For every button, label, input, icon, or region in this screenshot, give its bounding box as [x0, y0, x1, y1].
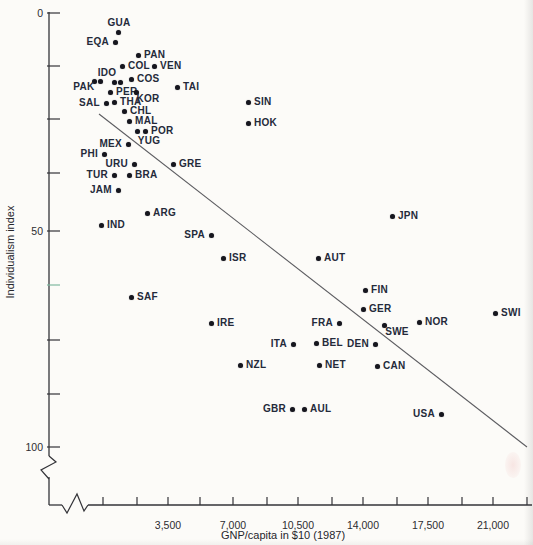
x-tick-label: 10,500	[282, 519, 314, 531]
data-point-ind	[99, 223, 104, 228]
data-point-yug	[135, 129, 140, 134]
data-point-fin	[363, 288, 368, 293]
point-label-nzl: NZL	[246, 360, 266, 370]
point-label-ido: IDO	[98, 68, 117, 78]
data-point-ger	[361, 307, 366, 312]
data-point-mex	[126, 142, 131, 147]
point-label-jpn: JPN	[398, 211, 418, 221]
data-point-den	[373, 342, 378, 347]
data-point-por	[143, 129, 148, 134]
data-point-cos	[129, 77, 134, 82]
point-label-yug: YUG	[138, 136, 161, 146]
point-label-fin: FIN	[371, 285, 388, 295]
x-tick-label: 21,000	[477, 519, 509, 531]
data-point-fra	[337, 321, 342, 326]
data-point-ita	[291, 342, 296, 347]
data-point-jpn	[390, 214, 395, 219]
point-label-fra: FRA	[312, 318, 333, 328]
point-label-sin: SIN	[254, 97, 272, 107]
data-point-jam	[116, 188, 121, 193]
point-label-bel: BEL	[322, 338, 343, 348]
data-point-tur	[112, 173, 117, 178]
data-point-tha	[112, 100, 117, 105]
data-point-phi	[102, 152, 107, 157]
data-point-usa	[439, 412, 444, 417]
data-point-bra	[127, 173, 132, 178]
point-label-saf: SAF	[137, 292, 158, 302]
point-label-cos: COS	[137, 74, 160, 84]
data-point-chl	[122, 109, 127, 114]
x-tick-label: 7,000	[220, 519, 246, 531]
scatter-plot: Individualism index GNP/capita in $10 (1…	[0, 0, 533, 545]
data-point-tai	[175, 85, 180, 90]
data-point-sal	[104, 101, 109, 106]
data-point-eqa	[113, 40, 118, 45]
data-point-arg	[145, 211, 150, 216]
data-point-saf	[129, 295, 134, 300]
point-label-gua: GUA	[107, 18, 130, 28]
point-label-aut: AUT	[324, 253, 345, 263]
data-point-aut	[316, 256, 321, 261]
scan-smudge	[505, 452, 521, 478]
point-label-tur: TUR	[87, 170, 108, 180]
data-point-hok	[246, 121, 251, 126]
point-label-col: COL	[128, 61, 150, 71]
point-label-ger: GER	[369, 304, 392, 314]
point-label-den: DEN	[347, 339, 369, 349]
point-label-aul: AUL	[310, 404, 331, 414]
data-point-gua	[116, 30, 121, 35]
data-point-nor	[417, 320, 422, 325]
point-label-net: NET	[325, 360, 346, 370]
point-label-can: CAN	[383, 361, 406, 371]
data-point-gre	[171, 162, 176, 167]
point-label-swi: SWI	[501, 308, 521, 318]
point-label-tai: TAI	[183, 82, 199, 92]
point-label-por: POR	[151, 126, 174, 136]
x-tick-label: 14,000	[347, 519, 379, 531]
plot-area: Individualism index GNP/capita in $10 (1…	[0, 0, 533, 545]
data-point-col	[120, 64, 125, 69]
point-label-ire: IRE	[217, 318, 235, 328]
data-point-spa	[209, 233, 214, 238]
point-label-mex: MEX	[99, 139, 122, 149]
point-label-sal: SAL	[79, 98, 100, 108]
point-label-ind: IND	[107, 220, 125, 230]
x-tick-label: 3,500	[155, 519, 181, 531]
data-point-bel	[314, 341, 319, 346]
data-point-sin	[246, 100, 251, 105]
data-point-unlabeled	[112, 80, 117, 85]
point-label-arg: ARG	[153, 208, 176, 218]
point-label-swe: SWE	[385, 327, 409, 337]
data-point-unlabeled	[118, 80, 123, 85]
point-label-spa: SPA	[184, 230, 205, 240]
point-label-pak: PAK	[73, 82, 94, 92]
data-point-swi	[493, 311, 498, 316]
point-label-eqa: EQA	[86, 37, 109, 47]
y-tick-label: 0	[37, 7, 43, 19]
point-label-bra: BRA	[135, 170, 158, 180]
data-point-pan	[136, 53, 141, 58]
data-point-ido	[98, 79, 103, 84]
point-label-gre: GRE	[179, 159, 202, 169]
data-point-per	[108, 90, 113, 95]
data-point-uru	[132, 162, 137, 167]
point-label-jam: JAM	[90, 185, 112, 195]
y-tick-label: 50	[31, 225, 43, 237]
data-point-mal	[127, 119, 132, 124]
data-point-gbr	[290, 407, 295, 412]
point-label-phi: PHI	[80, 149, 98, 159]
data-point-ire	[209, 321, 214, 326]
data-point-net	[317, 363, 322, 368]
point-label-ita: ITA	[271, 339, 287, 349]
data-point-ven	[152, 64, 157, 69]
point-label-usa: USA	[413, 409, 435, 419]
y-axis-title: Individualism index	[4, 206, 16, 299]
data-point-can	[375, 364, 380, 369]
point-label-ven: VEN	[160, 61, 181, 71]
point-label-uru: URU	[105, 159, 128, 169]
data-point-isr	[221, 256, 226, 261]
data-point-aul	[302, 407, 307, 412]
x-tick-label: 17,500	[412, 519, 444, 531]
y-tick-label: 100	[25, 441, 43, 453]
point-label-gbr: GBR	[263, 404, 286, 414]
